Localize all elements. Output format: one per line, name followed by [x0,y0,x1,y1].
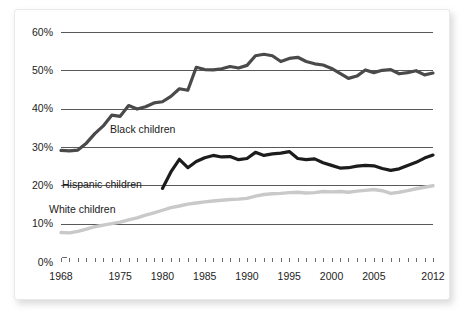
series-line-black-children [61,54,433,151]
y-axis-label-20: 20% [32,179,53,191]
x-axis-label-1995: 1995 [278,270,302,282]
x-axis-label-1985: 1985 [193,270,217,282]
x-axis-label-2000: 2000 [320,270,344,282]
x-axis-label-2005: 2005 [362,270,386,282]
y-axis-label-0: 0% [38,256,53,268]
y-axis-label-40: 40% [32,102,53,114]
series-line-white-children [61,186,433,233]
x-axis-ticks [62,258,434,263]
series-line-hispanic-children [162,152,433,189]
x-axis-label-1975: 1975 [109,270,133,282]
y-axis-label-50: 50% [32,64,53,76]
series-label-hispanic: Hispanic children [62,178,142,190]
y-axis-labels: 0%10%20%30%40%50%60% [32,26,53,268]
series-labels: Black childrenHispanic childrenWhite chi… [49,123,176,215]
series-label-white: White children [49,203,116,215]
x-axis-label-2012: 2012 [421,270,445,282]
y-axis-label-30: 30% [32,141,53,153]
line-chart: 0%10%20%30%40%50%60% 1968197519801985199… [0,0,474,315]
x-axis-label-1968: 1968 [49,270,73,282]
x-axis-label-1980: 1980 [151,270,175,282]
data-series [61,54,433,233]
x-axis-label-1990: 1990 [235,270,259,282]
series-label-black: Black children [110,123,176,135]
x-axis-labels: 196819751980198519901995200020052012 [49,270,445,282]
y-axis-label-10: 10% [32,217,53,229]
chart-figure: 0%10%20%30%40%50%60% 1968197519801985199… [0,0,474,315]
y-axis-label-60: 60% [32,26,53,38]
